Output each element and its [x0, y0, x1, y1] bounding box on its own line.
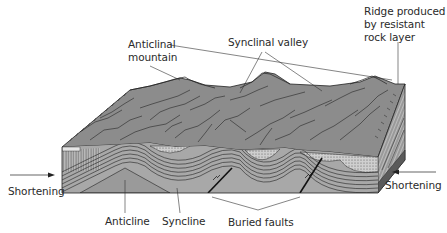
label-ridge-line2: by resistant [364, 18, 445, 31]
block-diagram: Anticlinal mountain Synclinal valley Rid… [0, 0, 447, 233]
label-synclinal-valley: Synclinal valley [228, 36, 308, 49]
label-syncline: Syncline [162, 215, 205, 228]
label-shortening-left: Shortening [8, 185, 65, 198]
label-anticlinal-mountain: Anticlinal mountain [128, 38, 177, 64]
label-anticlinal-line1: Anticlinal [128, 38, 177, 51]
terrain-surface [62, 72, 405, 157]
shortening-arrow-right [392, 170, 436, 175]
label-ridge-line3: rock layer [364, 31, 445, 44]
label-shortening-right: Shortening [385, 179, 442, 192]
label-ridge-line1: Ridge produced [364, 5, 445, 18]
shortening-arrow-left [10, 173, 55, 178]
label-ridge: Ridge produced by resistant rock layer [364, 5, 445, 44]
label-buried-faults: Buried faults [228, 216, 294, 229]
label-anticline: Anticline [105, 215, 150, 228]
label-anticlinal-line2: mountain [128, 51, 177, 64]
